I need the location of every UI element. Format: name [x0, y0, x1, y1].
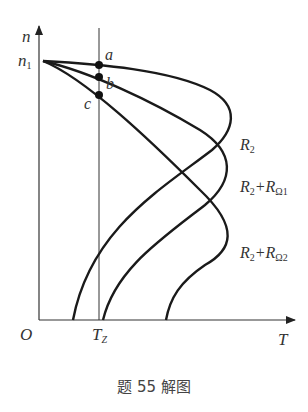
curve-r2-romega2 — [43, 61, 228, 320]
tz-label: TZ — [92, 325, 107, 345]
point-a — [95, 61, 103, 69]
point-c-label: c — [84, 95, 91, 112]
figure-caption: 题 55 解图 — [0, 375, 308, 396]
curve-r2-romega2-label: R2+RΩ2 — [239, 244, 288, 263]
curve-r2-label: R2 — [239, 136, 255, 155]
n1-label: n1 — [18, 51, 32, 71]
mechanical-characteristic-diagram: n T O n1 TZ a b c R2 R2+RΩ1 R2+RΩ2 — [0, 0, 308, 412]
y-axis-label: n — [22, 27, 31, 46]
point-c — [95, 91, 103, 99]
x-axis-label: T — [278, 330, 289, 349]
curve-r2 — [43, 61, 231, 320]
origin-label: O — [20, 325, 32, 344]
curve-r2-romega1-label: R2+RΩ1 — [239, 178, 288, 197]
point-b — [95, 73, 103, 81]
point-a-label: a — [105, 46, 113, 63]
point-b-label: b — [106, 75, 114, 92]
